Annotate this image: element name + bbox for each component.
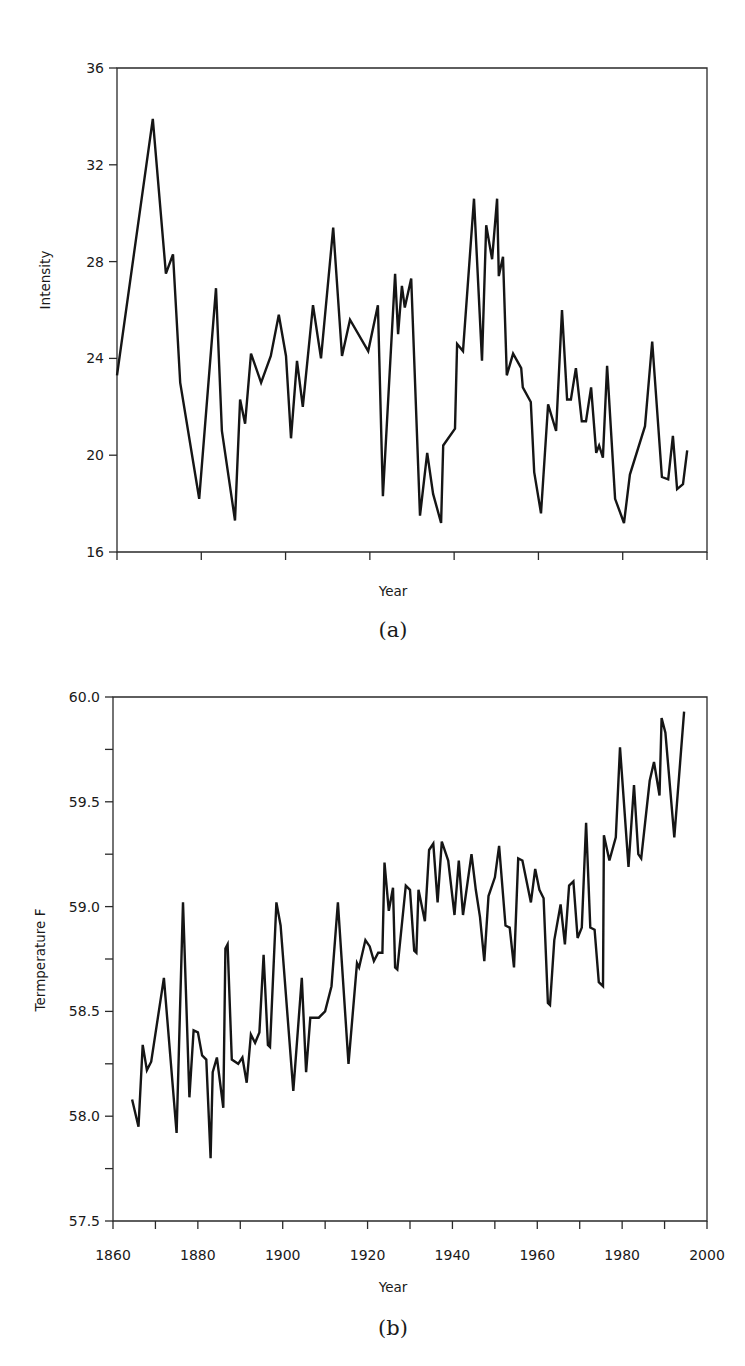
y-tick-label: 24	[86, 350, 104, 366]
chart-b-x-axis-title: Year	[378, 1279, 408, 1295]
figure: 162024283236 Year Intensity (a) 57.558.0…	[0, 0, 745, 1366]
y-tick-label: 36	[86, 60, 104, 76]
chart-a-x-axis	[117, 552, 707, 560]
chart-a-intensity-line	[117, 119, 687, 523]
x-tick-label: 1920	[350, 1247, 386, 1263]
chart-panel-a: 162024283236 Year Intensity (a)	[37, 60, 707, 642]
x-tick-label: 1900	[265, 1247, 301, 1263]
x-tick-label: 2000	[689, 1247, 725, 1263]
y-tick-label: 59.5	[69, 794, 100, 810]
y-tick-label: 59.0	[69, 899, 100, 915]
y-tick-label: 60.0	[69, 689, 100, 705]
x-tick-label: 1880	[180, 1247, 216, 1263]
chart-panel-b: 57.558.058.559.059.560.0 186018801900192…	[32, 689, 725, 1340]
y-tick-label: 20	[86, 447, 104, 463]
x-tick-label: 1960	[519, 1247, 555, 1263]
panel-label-b: (b)	[378, 1316, 408, 1340]
y-tick-label: 58.0	[69, 1108, 100, 1124]
y-tick-label: 28	[86, 254, 104, 270]
x-tick-label: 1940	[435, 1247, 471, 1263]
y-tick-label: 32	[86, 157, 104, 173]
chart-b-y-axis-title: Termperature F	[32, 909, 48, 1013]
chart-a-y-axis-title: Intensity	[37, 251, 53, 310]
chart-b-temperature-line	[132, 712, 684, 1158]
x-tick-label: 1860	[95, 1247, 131, 1263]
chart-a-x-axis-title: Year	[378, 583, 408, 599]
chart-a-y-axis: 162024283236	[86, 60, 117, 560]
chart-b-x-axis: 18601880190019201940196019802000	[95, 1221, 725, 1263]
y-tick-label: 57.5	[69, 1213, 100, 1229]
y-tick-label: 58.5	[69, 1003, 100, 1019]
x-tick-label: 1980	[604, 1247, 640, 1263]
y-tick-label: 16	[86, 544, 104, 560]
chart-b-y-axis: 57.558.058.559.059.560.0	[69, 689, 113, 1229]
panel-label-a: (a)	[379, 618, 408, 642]
